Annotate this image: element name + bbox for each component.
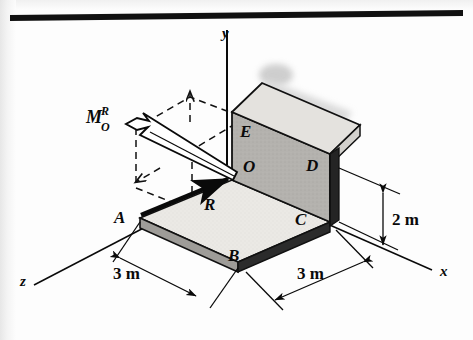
moment-subscript: O [101,120,110,134]
point-label-O: O [243,158,255,175]
vector-MOR [126,113,237,180]
statics-diagram-svg [0,0,473,340]
vector-label-R: R [204,196,215,213]
dimension-2m [339,168,400,250]
point-label-B: B [228,247,239,264]
axis-label-y: y [222,26,229,41]
figure-page: y x z A B C D E O R MRO 3 m 3 m 2 m [0,0,473,340]
vector-label-MOR: MRO [86,106,119,130]
moment-superscript: R [101,104,109,118]
moment-base: M [86,107,102,127]
point-label-C: C [295,211,306,228]
point-label-E: E [240,123,251,140]
point-label-A: A [114,209,125,226]
dimension-label-2m: 2 m [392,211,419,228]
dimension-label-right-3m: 3 m [297,265,324,282]
axis-label-z: z [20,274,26,289]
point-label-D: D [306,157,318,174]
axis-label-x: x [440,264,448,279]
dimension-label-left-3m: 3 m [113,265,140,282]
top-rule [10,10,463,21]
